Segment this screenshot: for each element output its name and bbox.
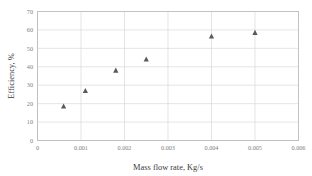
scatter-chart: 01020304050607000.0010.0020.0030.0040.00… — [0, 0, 312, 176]
x-tick-label: 0.003 — [161, 144, 175, 151]
y-tick-label: 60 — [27, 26, 33, 33]
y-tick-label: 20 — [27, 100, 33, 107]
data-point-marker — [83, 88, 88, 93]
y-tick-label: 10 — [27, 118, 33, 125]
x-tick-label: 0 — [36, 144, 39, 151]
y-tick-label: 0 — [30, 137, 33, 144]
y-tick-label: 40 — [27, 63, 33, 70]
y-axis-title: Efficiency, % — [7, 53, 16, 98]
x-tick-label: 0.004 — [205, 144, 219, 151]
data-point-marker — [209, 34, 214, 39]
x-axis-title: Mass flow rate, Kg/s — [133, 163, 203, 172]
data-point-marker — [252, 30, 257, 35]
y-tick-label: 30 — [27, 81, 33, 88]
x-tick-label: 0.002 — [118, 144, 132, 151]
x-tick-label: 0.005 — [248, 144, 262, 151]
y-tick-label: 70 — [27, 8, 33, 15]
data-point-marker — [113, 68, 118, 73]
x-tick-label: 0.006 — [292, 144, 306, 151]
chart-container: 01020304050607000.0010.0020.0030.0040.00… — [0, 0, 312, 176]
x-tick-label: 0.001 — [74, 144, 88, 151]
data-point-marker — [144, 57, 149, 62]
y-tick-label: 50 — [27, 45, 33, 52]
data-point-marker — [61, 104, 66, 109]
